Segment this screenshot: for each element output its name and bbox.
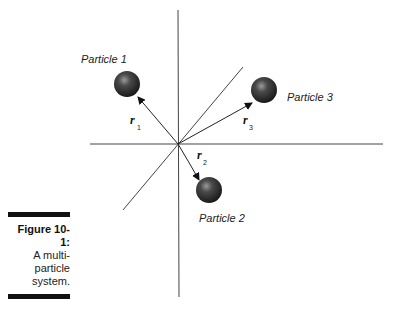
particle-3-sphere <box>251 77 277 103</box>
vector-r1-label: r <box>130 113 135 127</box>
particle-1-sphere <box>114 71 140 97</box>
y-axis <box>178 10 179 297</box>
particle-diagram: Particle 1 Particle 2 Particle 3 r 1 r 2… <box>0 0 397 313</box>
vector-r2-arrow <box>178 144 199 180</box>
particle-1-label: Particle 1 <box>81 53 127 65</box>
vector-r2-label: r <box>197 148 202 162</box>
vector-r3-arrow <box>178 103 252 144</box>
vector-r3-label: r <box>243 113 248 127</box>
vector-r2-subscript: 2 <box>203 159 207 166</box>
vector-r1-subscript: 1 <box>137 124 141 131</box>
vector-r1-arrow <box>138 97 178 144</box>
particle-2-sphere <box>196 177 222 203</box>
z-axis <box>123 67 243 210</box>
particle-3-label: Particle 3 <box>287 91 334 103</box>
particle-2-label: Particle 2 <box>199 212 245 224</box>
vector-r3-subscript: 3 <box>249 124 253 131</box>
